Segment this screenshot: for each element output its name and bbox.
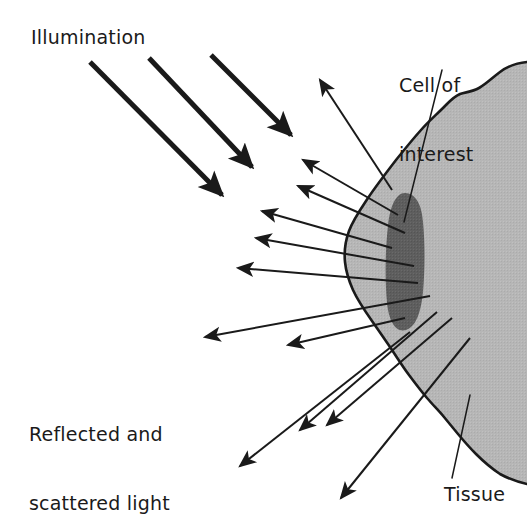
illumination-rays	[90, 55, 291, 195]
label-reflected-line-2: scattered light	[29, 492, 170, 515]
figure-canvas: Illumination Cell of interest Reflected …	[0, 0, 527, 529]
label-illumination: Illumination	[31, 26, 145, 49]
illumination-ray-1	[90, 62, 222, 195]
illumination-ray-3	[211, 55, 291, 135]
scattered-ray-9	[240, 332, 410, 466]
label-tissue: Tissue	[444, 483, 505, 506]
label-reflected-and-scattered-light: Reflected and scattered light	[29, 377, 170, 529]
label-cell-of-interest: Cell of interest	[399, 28, 474, 212]
scattered-ray-1	[320, 80, 392, 190]
illumination-ray-2	[149, 58, 252, 167]
label-cell-of-interest-line-2: interest	[399, 143, 474, 166]
label-reflected-line-1: Reflected and	[29, 423, 170, 446]
label-cell-of-interest-line-1: Cell of	[399, 74, 474, 97]
